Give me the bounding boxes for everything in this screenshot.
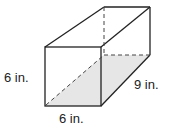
length-label: 9 in.	[134, 78, 159, 91]
top-left-edge	[45, 7, 104, 47]
height-label: 6 in.	[4, 71, 29, 84]
top-right-edge	[101, 7, 150, 47]
width-label: 6 in.	[59, 112, 84, 125]
prism-diagram	[0, 0, 173, 129]
